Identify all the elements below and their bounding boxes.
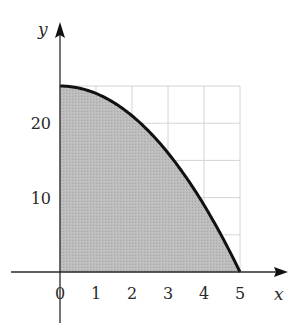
y-tick-label: 20 <box>31 114 51 133</box>
x-tick-label: 4 <box>199 284 209 303</box>
x-tick-labels: 012345 <box>55 284 245 303</box>
y-tick-labels: 1020 <box>31 114 51 207</box>
x-tick-label: 5 <box>235 284 245 303</box>
x-axis-arrow-icon <box>274 267 288 277</box>
x-tick-label: 1 <box>91 284 101 303</box>
x-tick-label: 2 <box>127 284 137 303</box>
y-axis-label: y <box>37 19 48 39</box>
shaded-area <box>60 86 240 272</box>
x-tick-label: 0 <box>55 284 65 303</box>
x-tick-label: 3 <box>163 284 173 303</box>
x-axis-label: x <box>274 284 284 304</box>
y-tick-label: 10 <box>31 189 51 208</box>
chart: y x 012345 1020 <box>0 0 298 330</box>
